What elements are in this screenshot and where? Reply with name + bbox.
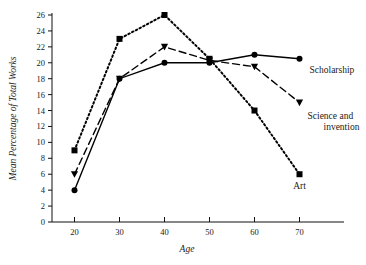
y-axis-tick-label: 18 [37,74,46,84]
series-markers-art [297,171,303,177]
y-axis-tick-label: 6 [41,169,45,179]
y-axis-tick-label: 10 [37,137,46,147]
y-axis-tick-label: 8 [41,153,45,163]
series-markers-scholarship [117,76,123,82]
line-chart: 02468101214161820222426203040506070AgeMe… [0,0,366,265]
series-markers-art [117,36,123,42]
y-axis-tick-label: 12 [37,121,46,131]
series-markers-art [252,108,258,114]
series-markers-science-and-invention [296,100,303,107]
y-axis-tick-label: 24 [37,26,46,36]
x-axis-tick-label: 50 [205,227,214,237]
series-markers-scholarship [72,187,78,193]
y-axis-tick-label: 26 [37,10,46,20]
y-axis-title: Mean Percentage of Total Works [8,56,18,181]
x-axis-tick-label: 40 [160,227,169,237]
series-markers-science-and-invention [71,171,78,178]
y-axis-tick-label: 22 [37,42,46,52]
series-markers-scholarship [297,56,303,62]
y-axis-tick-label: 2 [41,201,45,211]
series-label-science-line1: Science and [308,111,354,121]
series-markers-scholarship [207,60,213,66]
x-axis-tick-label: 60 [250,227,259,237]
series-markers-art [72,147,78,153]
series-label-scholarship: Scholarship [310,65,355,75]
series-markers-scholarship [162,60,168,66]
y-axis-tick-label: 4 [41,185,46,195]
series-line-art [75,15,300,174]
x-axis-tick-label: 20 [70,227,79,237]
y-axis-tick-label: 20 [37,58,46,68]
chart-figure: 02468101214161820222426203040506070AgeMe… [0,0,366,265]
series-label-art: Art [293,181,306,191]
series-line-science-and-invention [75,47,300,174]
y-axis-tick-label: 16 [37,90,46,100]
series-label-science-line2: invention [324,122,360,132]
series-markers-art [162,12,168,18]
y-axis-tick-label: 0 [41,217,45,227]
x-axis-tick-label: 30 [115,227,124,237]
y-axis-tick-label: 14 [37,106,46,116]
x-axis-title: Age [179,244,195,254]
x-axis-tick-label: 70 [295,227,304,237]
series-markers-scholarship [252,52,258,58]
